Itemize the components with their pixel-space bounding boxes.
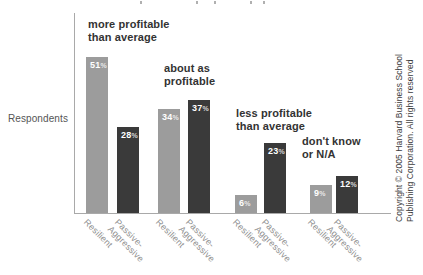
bar-resilient: 34% (158, 109, 180, 213)
cropped-text-fragment (140, 1, 142, 4)
bar-resilient: 9% (310, 185, 332, 213)
chart-canvas: Respondents 51%28%34%37%6%23%9%12% more … (0, 0, 423, 275)
category-annotation: don't know or N/A (302, 135, 361, 161)
bar-passive-aggressive: 23% (264, 143, 286, 213)
cropped-text-fragment (263, 1, 265, 4)
y-axis-label: Respondents (4, 113, 68, 124)
copyright-line-1: Copyright © 2005 Harvard Business School (394, 10, 405, 222)
copyright-vertical-text: Copyright © 2005 Harvard Business School… (394, 10, 416, 222)
category-annotation: more profitable than average (88, 18, 170, 44)
y-axis-line (74, 13, 75, 213)
bar-passive-aggressive: 37% (188, 100, 210, 213)
cropped-text-fragment (196, 1, 198, 4)
bar-value-label: 37% (188, 100, 210, 113)
x-axis-line (74, 213, 391, 214)
bar-value-label: 51% (86, 57, 108, 70)
copyright-line-2: Publishing Corporation. All rights reser… (405, 10, 416, 222)
bar-passive-aggressive: 12% (336, 176, 358, 213)
category-annotation: less profitable than average (236, 107, 312, 133)
category-annotation: about as profitable (164, 62, 215, 88)
bar-value-label: 6% (235, 195, 257, 208)
bar-passive-aggressive: 28% (117, 127, 139, 213)
cropped-text-fragment (214, 1, 216, 4)
bar-value-label: 9% (310, 185, 332, 198)
bar-value-label: 12% (336, 176, 358, 189)
bar-resilient: 51% (86, 57, 108, 213)
cropped-text-fragment (250, 1, 252, 4)
bar-value-label: 28% (117, 127, 139, 140)
bar-resilient: 6% (235, 195, 257, 213)
bar-value-label: 34% (158, 109, 180, 122)
bar-value-label: 23% (264, 143, 286, 156)
